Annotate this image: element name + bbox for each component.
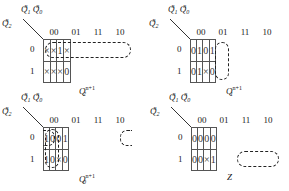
column-header-10: 10 [257, 116, 279, 125]
column-header-00: 00 [190, 28, 212, 37]
kmap-cell: × [44, 61, 51, 83]
kmap-cell: 1 [210, 149, 216, 171]
kmap-row: 0000 [192, 128, 217, 150]
group-loop-q0-wrap-right [120, 130, 132, 146]
group-loop-q0-wrap-left [43, 130, 55, 146]
column-variables-label: Qn1 Qn0 [169, 91, 190, 103]
row-header-1: 1 [30, 67, 35, 76]
function-label: Qn+11 [226, 85, 233, 97]
kmap-grid: 000000×1 [191, 127, 217, 171]
kmap-cell: × [57, 61, 64, 83]
kmap-cell: 0 [204, 128, 211, 150]
kmap-cell: 0 [203, 40, 210, 62]
column-variables-label: Qn1 Qn0 [168, 3, 189, 15]
kmap-cell: 0 [210, 128, 216, 150]
group-loop-q2-row0 [45, 42, 131, 58]
column-header-01: 01 [65, 116, 87, 125]
column-header-11: 11 [87, 28, 109, 37]
row-header-0: 0 [178, 133, 183, 142]
kmap-cell: 1 [62, 128, 68, 150]
column-header-10: 10 [256, 28, 278, 37]
row-variable-label: Qn2 [2, 17, 12, 29]
kmap-row: 01×0 [191, 61, 216, 83]
function-label: Qn+12 [79, 85, 86, 97]
column-header-00: 00 [43, 28, 65, 37]
column-header-11: 11 [235, 116, 257, 125]
column-header-01: 01 [212, 28, 234, 37]
function-label: Qn+10 [79, 173, 86, 185]
row-header-1: 1 [178, 155, 183, 164]
function-label: Z [227, 173, 232, 182]
column-header-10: 10 [109, 28, 131, 37]
row-header-0: 0 [30, 45, 35, 54]
row-header-0: 0 [177, 45, 182, 54]
kmap-cell: × [204, 149, 211, 171]
group-loop-q1-col01 [215, 42, 229, 80]
group-loop-z-row1 [237, 151, 279, 167]
kmap-cell: 0 [62, 149, 68, 171]
row-header-0: 0 [30, 133, 35, 142]
kmap-row: 0101 [191, 40, 216, 62]
column-header-00: 00 [43, 116, 65, 125]
row-header-1: 1 [177, 67, 182, 76]
kmap-row: 00×1 [192, 149, 217, 171]
kmap-cell: 0 [63, 61, 70, 83]
column-variables-label: Qn1 Qn0 [21, 3, 42, 15]
column-header-01: 01 [213, 116, 235, 125]
column-header-10: 10 [109, 116, 131, 125]
column-header-11: 11 [87, 116, 109, 125]
kmap-grid: 010101×0 [190, 39, 216, 83]
column-header-11: 11 [234, 28, 256, 37]
column-variables-label: Qn1 Qn0 [21, 91, 42, 103]
kmap-row: ×××0 [44, 61, 71, 83]
kmap-cell: × [50, 61, 57, 83]
row-variable-label: Qn2 [150, 105, 160, 117]
kmap-cell: × [203, 61, 210, 83]
row-header-1: 1 [30, 155, 35, 164]
column-header-01: 01 [65, 28, 87, 37]
row-variable-label: Qn2 [149, 17, 159, 29]
column-header-00: 00 [191, 116, 213, 125]
row-variable-label: Qn2 [2, 105, 12, 117]
